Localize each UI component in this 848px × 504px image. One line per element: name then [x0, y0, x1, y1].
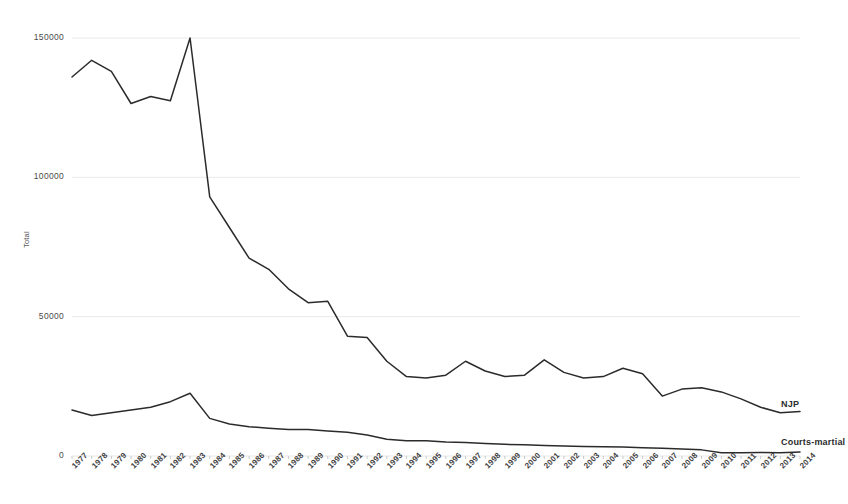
gridlines: [72, 38, 800, 459]
line-chart: Total 050000100000150000 197719781979198…: [0, 0, 848, 504]
y-tick-label: 100000: [4, 171, 64, 181]
series-line-njp: [72, 38, 800, 413]
series-label-njp: NJP: [781, 399, 799, 409]
y-axis-title: Total: [22, 188, 31, 248]
series-label-courts-martial: Courts-martial: [781, 437, 845, 447]
series-lines: [72, 38, 800, 453]
plot-area: [0, 0, 848, 504]
y-tick-label: 50000: [4, 311, 64, 321]
y-tick-label: 150000: [4, 32, 64, 42]
y-tick-label: 0: [4, 450, 64, 460]
series-line-courts-martial: [72, 393, 800, 452]
